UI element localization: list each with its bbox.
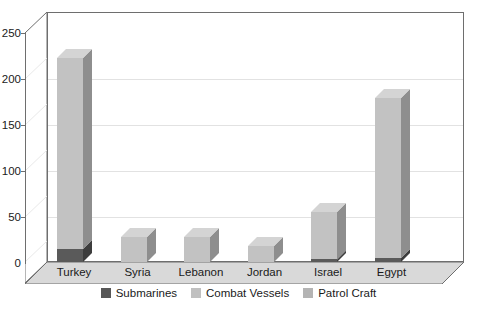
y-axis-label-250: 250 [0,27,21,39]
legend-swatch-icon [191,288,201,298]
x-axis-label-syria: Syria [124,266,150,278]
y-axis-label-0: 0 [0,257,21,269]
plot-area: 250 200 150 100 50 0 TurkeySyriaLebanonJ… [0,0,477,314]
segment-combat-vessels[interactable] [121,237,147,262]
segment-combat-vessels-side [401,89,410,258]
y-axis-tick-250 [21,33,26,34]
y-axis-tick-100 [21,171,26,172]
y-axis-tick-150 [21,125,26,126]
legend-label: Submarines [116,287,177,299]
segment-combat-vessels-side [83,49,92,249]
bar-syria[interactable] [121,237,147,262]
segment-combat-vessels[interactable] [248,246,274,262]
x-axis-label-lebanon: Lebanon [179,266,224,278]
y-axis-tick-200 [21,79,26,80]
y-axis-label-200: 200 [0,73,21,85]
legend-item-submarines[interactable]: Submarines [101,287,177,299]
gridline-200 [48,79,463,80]
y-axis [25,33,26,264]
legend-label: Combat Vessels [206,287,289,299]
legend-item-combat-vessels[interactable]: Combat Vessels [191,287,289,299]
bar-egypt[interactable] [375,98,401,262]
y-axis-tick-50 [21,217,26,218]
chart-container: 250 200 150 100 50 0 TurkeySyriaLebanonJ… [0,0,477,314]
segment-submarines[interactable] [375,258,401,262]
x-axis-label-jordan: Jordan [247,266,282,278]
segment-combat-vessels[interactable] [184,237,210,262]
bar-turkey[interactable] [57,58,83,262]
x-axis-label-turkey: Turkey [57,266,92,278]
chart-legend: SubmarinesCombat VesselsPatrol Craft [0,287,477,299]
segment-submarines[interactable] [57,249,83,262]
y-axis-label-50: 50 [0,211,21,223]
depth-connectors [25,12,48,284]
y-axis-label-150: 150 [0,119,21,131]
bar-jordan[interactable] [248,246,274,262]
legend-item-patrol-craft[interactable]: Patrol Craft [303,287,376,299]
bar-lebanon[interactable] [184,237,210,262]
legend-swatch-icon [101,288,111,298]
legend-label: Patrol Craft [318,287,376,299]
x-axis-label-egypt: Egypt [377,266,406,278]
y-axis-label-100: 100 [0,165,21,177]
segment-combat-vessels[interactable] [57,58,83,249]
segment-submarines[interactable] [311,259,337,262]
segment-combat-vessels[interactable] [311,212,337,260]
segment-combat-vessels[interactable] [375,98,401,258]
bar-israel[interactable] [311,212,337,262]
segment-combat-vessels-side [337,203,346,260]
legend-swatch-icon [303,288,313,298]
x-axis-label-israel: Israel [314,266,342,278]
